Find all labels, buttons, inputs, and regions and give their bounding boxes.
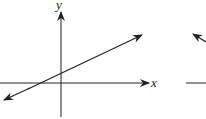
y-axis-label: y [54, 0, 62, 12]
second-graph-line [193, 34, 206, 42]
coordinate-graph: x y [0, 0, 206, 119]
graphed-line-lower [4, 88, 30, 100]
graphed-line [28, 35, 142, 89]
x-axis-label: x [150, 75, 157, 90]
diagram-canvas: x y [0, 0, 206, 119]
